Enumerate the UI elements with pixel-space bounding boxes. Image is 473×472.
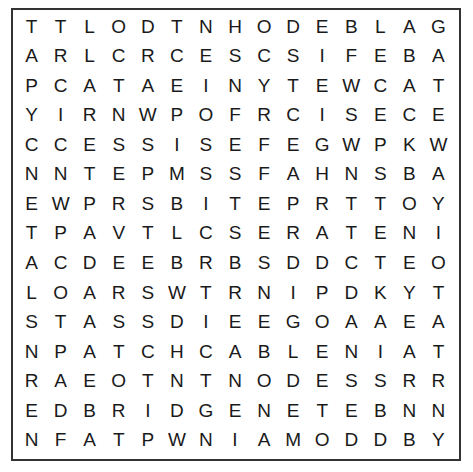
letter-cell[interactable]: T	[75, 160, 104, 190]
letter-cell[interactable]: E	[308, 71, 337, 101]
letter-cell[interactable]: O	[308, 425, 337, 455]
letter-cell[interactable]: S	[220, 160, 249, 190]
letter-cell[interactable]: S	[104, 130, 133, 160]
letter-cell[interactable]: A	[337, 307, 366, 337]
letter-cell[interactable]: B	[162, 189, 191, 219]
letter-cell[interactable]: T	[424, 278, 453, 308]
letter-cell[interactable]: T	[46, 307, 75, 337]
letter-cell[interactable]: Y	[250, 71, 279, 101]
letter-cell[interactable]: T	[104, 425, 133, 455]
letter-cell[interactable]: B	[366, 396, 395, 426]
letter-cell[interactable]: I	[308, 42, 337, 72]
letter-cell[interactable]: B	[395, 42, 424, 72]
letter-cell[interactable]: E	[75, 130, 104, 160]
letter-cell[interactable]: F	[220, 101, 249, 131]
letter-cell[interactable]: T	[162, 12, 191, 42]
letter-cell[interactable]: A	[424, 160, 453, 190]
letter-cell[interactable]: C	[250, 42, 279, 72]
letter-cell[interactable]: I	[308, 101, 337, 131]
letter-cell[interactable]: F	[250, 160, 279, 190]
letter-cell[interactable]: Y	[17, 101, 46, 131]
letter-cell[interactable]: G	[279, 307, 308, 337]
letter-cell[interactable]: C	[279, 101, 308, 131]
letter-cell[interactable]: P	[17, 71, 46, 101]
letter-cell[interactable]: E	[220, 130, 249, 160]
letter-cell[interactable]: A	[279, 160, 308, 190]
letter-cell[interactable]: C	[46, 248, 75, 278]
letter-cell[interactable]: A	[75, 219, 104, 249]
letter-cell[interactable]: B	[250, 337, 279, 367]
letter-cell[interactable]: Y	[424, 425, 453, 455]
letter-cell[interactable]: N	[104, 101, 133, 131]
letter-cell[interactable]: S	[191, 160, 220, 190]
letter-cell[interactable]: T	[46, 12, 75, 42]
letter-cell[interactable]: S	[279, 42, 308, 72]
letter-cell[interactable]: W	[337, 130, 366, 160]
letter-cell[interactable]: N	[424, 396, 453, 426]
letter-cell[interactable]: S	[337, 101, 366, 131]
letter-cell[interactable]: T	[337, 219, 366, 249]
letter-cell[interactable]: P	[46, 337, 75, 367]
letter-cell[interactable]: A	[220, 337, 249, 367]
letter-cell[interactable]: R	[17, 366, 46, 396]
letter-cell[interactable]: E	[279, 396, 308, 426]
letter-cell[interactable]: L	[279, 337, 308, 367]
letter-cell[interactable]: D	[308, 248, 337, 278]
letter-cell[interactable]: R	[133, 42, 162, 72]
letter-cell[interactable]: C	[17, 130, 46, 160]
letter-cell[interactable]: N	[191, 425, 220, 455]
letter-cell[interactable]: E	[424, 101, 453, 131]
letter-cell[interactable]: I	[424, 219, 453, 249]
letter-cell[interactable]: R	[75, 101, 104, 131]
letter-cell[interactable]: L	[366, 12, 395, 42]
letter-cell[interactable]: O	[46, 278, 75, 308]
letter-cell[interactable]: E	[279, 130, 308, 160]
letter-cell[interactable]: W	[46, 189, 75, 219]
letter-cell[interactable]: P	[162, 101, 191, 131]
letter-cell[interactable]: E	[17, 189, 46, 219]
letter-cell[interactable]: B	[337, 12, 366, 42]
letter-cell[interactable]: D	[75, 248, 104, 278]
letter-cell[interactable]: C	[104, 42, 133, 72]
letter-cell[interactable]: T	[133, 366, 162, 396]
letter-cell[interactable]: N	[250, 278, 279, 308]
letter-cell[interactable]: A	[75, 337, 104, 367]
letter-cell[interactable]: T	[366, 189, 395, 219]
letter-cell[interactable]: E	[366, 101, 395, 131]
letter-cell[interactable]: C	[133, 337, 162, 367]
letter-cell[interactable]: A	[395, 71, 424, 101]
letter-cell[interactable]: E	[308, 12, 337, 42]
letter-cell[interactable]: C	[46, 130, 75, 160]
letter-cell[interactable]: A	[308, 219, 337, 249]
letter-cell[interactable]: T	[104, 71, 133, 101]
letter-cell[interactable]: A	[17, 42, 46, 72]
letter-cell[interactable]: N	[337, 160, 366, 190]
letter-cell[interactable]: E	[104, 248, 133, 278]
letter-cell[interactable]: E	[133, 248, 162, 278]
letter-cell[interactable]: O	[250, 12, 279, 42]
letter-cell[interactable]: A	[424, 42, 453, 72]
letter-cell[interactable]: Y	[395, 278, 424, 308]
letter-cell[interactable]: S	[133, 307, 162, 337]
letter-cell[interactable]: O	[104, 12, 133, 42]
letter-cell[interactable]: S	[191, 130, 220, 160]
letter-cell[interactable]: A	[133, 71, 162, 101]
letter-cell[interactable]: A	[250, 425, 279, 455]
letter-cell[interactable]: W	[424, 130, 453, 160]
letter-cell[interactable]: S	[337, 366, 366, 396]
letter-cell[interactable]: E	[191, 42, 220, 72]
letter-cell[interactable]: T	[308, 396, 337, 426]
letter-cell[interactable]: E	[75, 366, 104, 396]
letter-cell[interactable]: E	[395, 248, 424, 278]
letter-cell[interactable]: E	[250, 307, 279, 337]
letter-cell[interactable]: D	[337, 278, 366, 308]
letter-cell[interactable]: N	[162, 366, 191, 396]
letter-cell[interactable]: C	[337, 248, 366, 278]
letter-cell[interactable]: O	[424, 248, 453, 278]
letter-cell[interactable]: P	[133, 425, 162, 455]
letter-cell[interactable]: O	[250, 366, 279, 396]
letter-cell[interactable]: I	[220, 425, 249, 455]
letter-cell[interactable]: E	[250, 219, 279, 249]
letter-cell[interactable]: N	[46, 160, 75, 190]
letter-cell[interactable]: E	[220, 396, 249, 426]
